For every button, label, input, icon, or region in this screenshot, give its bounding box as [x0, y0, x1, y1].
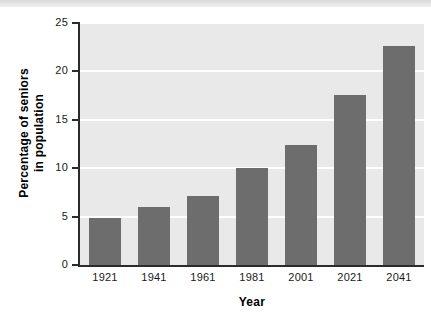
x-tick-label: 2041: [369, 271, 429, 283]
y-axis-title-line-1: Percentage of seniors: [17, 33, 32, 233]
bar: [334, 95, 366, 265]
y-tick-label: 25: [34, 16, 68, 30]
x-axis-line: [78, 265, 424, 267]
bar: [138, 207, 170, 265]
bar: [187, 196, 219, 265]
y-tick-label: 0: [34, 258, 68, 272]
y-tick-label-text: 25: [34, 16, 68, 28]
y-tick-mark: [72, 70, 80, 72]
y-tick-mark: [72, 119, 80, 121]
y-tick-label-text: 0: [34, 258, 68, 270]
bar: [89, 218, 121, 265]
y-tick-mark: [72, 264, 80, 266]
gridline: [80, 70, 424, 72]
gridline: [80, 119, 424, 121]
bar-chart-figure: 0510152025 1921194119611981200120212041 …: [0, 0, 431, 324]
y-tick-mark: [72, 167, 80, 169]
y-tick-mark: [72, 22, 80, 24]
y-tick-mark: [72, 216, 80, 218]
y-axis-title: Percentage of seniors in population: [17, 33, 47, 233]
gridline: [80, 22, 424, 24]
x-axis-title: Year: [80, 295, 424, 309]
bar: [285, 145, 317, 265]
bar: [236, 168, 268, 265]
bar: [383, 46, 415, 265]
y-axis-line: [78, 23, 80, 267]
y-axis-title-line-2: in population: [32, 33, 47, 233]
